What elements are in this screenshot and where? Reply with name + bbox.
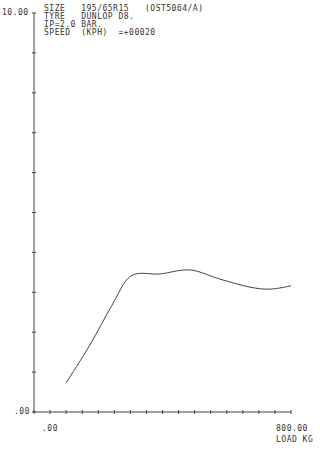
data-series-line [66, 270, 291, 383]
line-chart [0, 0, 320, 451]
